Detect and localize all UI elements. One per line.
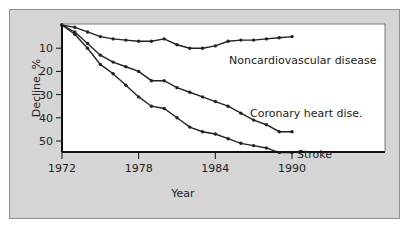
data-point xyxy=(226,40,229,43)
label-coronary: Coronary heart dise. xyxy=(250,107,363,120)
data-point xyxy=(201,95,204,98)
data-point xyxy=(278,130,281,133)
data-point xyxy=(175,86,178,89)
data-point xyxy=(73,26,76,29)
data-point xyxy=(239,38,242,41)
data-point xyxy=(137,70,140,73)
data-point xyxy=(265,37,268,40)
data-point xyxy=(290,130,293,133)
data-point xyxy=(265,123,268,126)
data-point xyxy=(239,111,242,114)
data-point xyxy=(86,47,89,50)
x-tick-label: 1990 xyxy=(278,162,306,175)
data-point xyxy=(150,79,153,82)
x-tick-label: 1984 xyxy=(201,162,229,175)
data-point xyxy=(73,33,76,36)
y-axis-title: Decline, % xyxy=(30,59,43,118)
data-point xyxy=(188,125,191,128)
data-point xyxy=(86,30,89,33)
y-tick-label: 10 xyxy=(39,42,53,55)
data-point xyxy=(163,79,166,82)
data-point xyxy=(124,84,127,87)
label-stroke: Stroke xyxy=(297,148,332,161)
data-point xyxy=(163,107,166,110)
data-point xyxy=(111,72,114,75)
data-point xyxy=(99,53,102,56)
data-point xyxy=(252,144,255,147)
data-point xyxy=(201,47,204,50)
line-chart: 1020304050 1972197819841990 Decline, % Y… xyxy=(0,0,406,226)
data-point xyxy=(290,35,293,38)
data-point xyxy=(188,91,191,94)
data-point xyxy=(111,60,114,63)
data-point xyxy=(137,95,140,98)
y-tick-label: 50 xyxy=(39,135,53,148)
x-axis-title: Year xyxy=(170,187,195,200)
data-point xyxy=(278,36,281,39)
label-noncardiovascular: Noncardiovascular disease xyxy=(229,54,377,67)
data-point xyxy=(124,65,127,68)
data-point xyxy=(150,105,153,108)
data-point xyxy=(226,105,229,108)
data-point xyxy=(175,43,178,46)
data-point xyxy=(214,132,217,135)
data-point xyxy=(239,142,242,145)
data-point xyxy=(214,100,217,103)
data-point xyxy=(252,38,255,41)
data-point xyxy=(226,137,229,140)
data-point xyxy=(137,40,140,43)
data-point xyxy=(99,35,102,38)
data-point xyxy=(265,146,268,149)
data-point xyxy=(124,38,127,41)
data-point xyxy=(214,44,217,47)
data-point xyxy=(111,37,114,40)
x-ticks: 1972197819841990 xyxy=(48,152,306,175)
data-point xyxy=(201,130,204,133)
data-point xyxy=(188,47,191,50)
data-point xyxy=(175,116,178,119)
data-point xyxy=(86,42,89,45)
x-tick-label: 1978 xyxy=(125,162,153,175)
data-point xyxy=(163,37,166,40)
data-point xyxy=(150,40,153,43)
x-tick-label: 1972 xyxy=(48,162,76,175)
data-point xyxy=(99,63,102,66)
